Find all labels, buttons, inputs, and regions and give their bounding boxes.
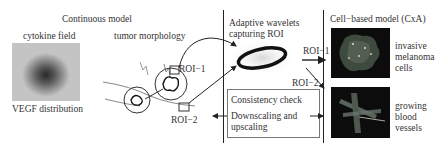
tumor-morphology-sketch bbox=[103, 62, 195, 113]
diagram-graphics bbox=[0, 0, 438, 146]
roi-2-to-wavelet-arrow bbox=[189, 66, 236, 103]
roi-2-to-vessels-arrow bbox=[306, 68, 324, 88]
roi-1-to-wavelet-arrow bbox=[179, 38, 236, 68]
wavelet-roi-ellipse bbox=[228, 40, 296, 76]
